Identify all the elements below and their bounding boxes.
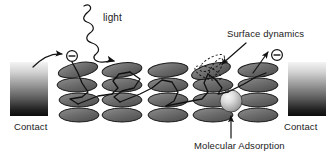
surface-dynamics-label: Surface dynamics — [227, 28, 304, 39]
contact-right-block — [288, 62, 326, 116]
light-label: light — [103, 12, 122, 23]
contact-left-block — [10, 62, 48, 116]
figure-canvas: light Surface dynamics Molecular Adsorpt… — [0, 0, 335, 163]
electron-in-icon — [67, 51, 78, 62]
contact-left-label: Contact — [14, 121, 47, 132]
contact-right-label: Contact — [284, 121, 317, 132]
schematic-svg — [0, 0, 335, 163]
electron-out-icon — [272, 50, 283, 61]
surface-dynamics-pointer-arrow — [222, 43, 246, 64]
molecular-adsorption-label: Molecular Adsorption — [194, 140, 285, 151]
disc-column-3 — [147, 61, 188, 122]
disc-column-5 — [238, 62, 279, 122]
disc-column-1 — [57, 59, 99, 122]
